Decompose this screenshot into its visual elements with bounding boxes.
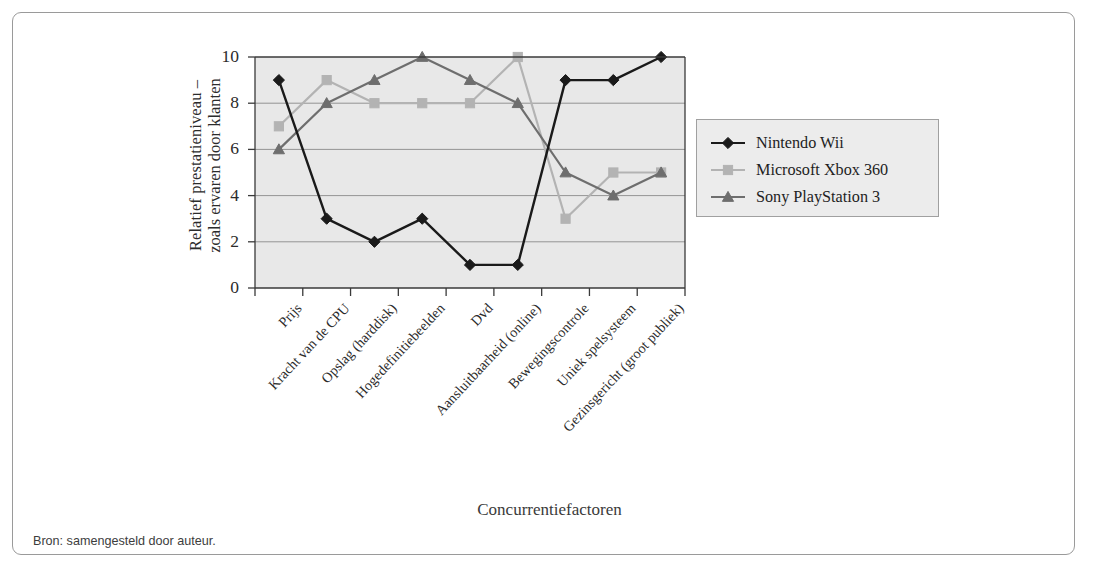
legend-label: Microsoft Xbox 360 <box>756 161 888 180</box>
legend-marker-square-icon <box>709 162 747 178</box>
y-tick-label: 10 <box>213 46 239 67</box>
chart-plot-area <box>0 0 1099 579</box>
legend-item-microsoft-xbox-360[interactable]: Microsoft Xbox 360 <box>709 156 888 184</box>
y-tick-label: 8 <box>213 92 239 113</box>
legend-label: Sony PlayStation 3 <box>756 188 880 207</box>
legend-marker-diamond-icon <box>709 135 747 151</box>
x-axis-title: Concurrentiefactoren <box>0 500 1099 520</box>
chart-legend: Nintendo WiiMicrosoft Xbox 360Sony PlayS… <box>696 119 939 217</box>
legend-item-sony-playstation-3[interactable]: Sony PlayStation 3 <box>709 183 880 211</box>
y-axis-title-line1: Relatief prestatieniveau – <box>186 43 206 288</box>
source-note: Bron: samengesteld door auteur. <box>33 534 216 548</box>
y-tick-label: 2 <box>213 231 239 252</box>
legend-item-nintendo-wii[interactable]: Nintendo Wii <box>709 129 844 157</box>
legend-marker-triangle-icon <box>709 189 747 205</box>
y-tick-label: 0 <box>213 277 239 298</box>
x-tick-marks <box>255 288 685 296</box>
legend-label: Nintendo Wii <box>756 134 844 153</box>
y-tick-label: 4 <box>213 185 239 206</box>
y-tick-label: 6 <box>213 138 239 159</box>
y-tick-marks <box>248 57 255 288</box>
